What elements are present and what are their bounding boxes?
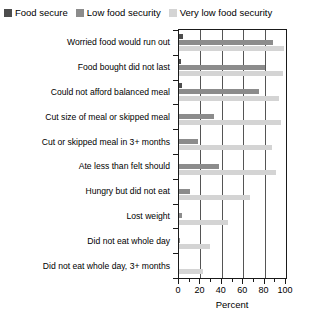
gridline-40 xyxy=(222,30,223,278)
y-axis-label-3: Cut size of meal or skipped meal xyxy=(0,112,174,122)
chart-legend: Food secure Low food security Very low f… xyxy=(4,6,305,20)
x-axis-tick-label-100: 100 xyxy=(273,285,297,296)
y-axis-label-8: Did not eat whole day xyxy=(0,236,174,246)
legend-swatch-icon-low-food-security xyxy=(76,9,84,17)
x-axis-tick-label-60: 60 xyxy=(230,285,254,296)
legend-swatch-icon-food-secure xyxy=(4,9,12,17)
y-axis-label-4: Cut or skipped meal in 3+ months xyxy=(0,137,174,147)
legend-item-very-low-food-security: Very low food security xyxy=(169,8,272,18)
y-axis-label-0: Worried food would run out xyxy=(0,37,174,47)
legend-label-low-food-security: Low food security xyxy=(87,8,161,18)
x-axis-tick-40 xyxy=(221,279,222,284)
y-axis-label-9: Did not eat whole day, 3+ months xyxy=(0,261,174,271)
x-axis-minor-tick-50 xyxy=(232,279,233,282)
x-axis-tick-label-40: 40 xyxy=(209,285,233,296)
x-axis-tick-20 xyxy=(199,279,200,284)
x-axis-tick-60 xyxy=(242,279,243,284)
x-axis-minor-tick-70 xyxy=(253,279,254,282)
x-axis-tick-0 xyxy=(178,279,179,284)
legend-label-food-secure: Food secure xyxy=(15,8,68,18)
x-axis-tick-80 xyxy=(264,279,265,284)
grouped-bar-chart: Food secure Low food security Very low f… xyxy=(0,0,309,320)
gridline-80 xyxy=(265,30,266,278)
x-axis-tick-label-0: 0 xyxy=(166,285,190,296)
y-axis-label-5: Ate less than felt should xyxy=(0,161,174,171)
x-axis-tick-label-80: 80 xyxy=(252,285,276,296)
legend-item-food-secure: Food secure xyxy=(4,8,68,18)
gridline-20 xyxy=(200,30,201,278)
plot-area xyxy=(178,29,287,279)
y-axis-label-6: Hungry but did not eat xyxy=(0,186,174,196)
legend-swatch-icon-very-low-food-security xyxy=(169,9,177,17)
x-axis-tick-100 xyxy=(285,279,286,284)
legend-item-low-food-security: Low food security xyxy=(76,8,161,18)
y-axis-label-2: Could not afford balanced meal xyxy=(0,87,174,97)
x-axis-tick-label-20: 20 xyxy=(187,285,211,296)
gridline-60 xyxy=(243,30,244,278)
legend-label-very-low-food-security: Very low food security xyxy=(180,8,272,18)
x-axis-minor-tick-90 xyxy=(274,279,275,282)
y-axis-label-7: Lost weight xyxy=(0,211,174,221)
x-axis-minor-tick-10 xyxy=(189,279,190,282)
x-axis-title: Percent xyxy=(178,299,286,310)
y-axis-label-1: Food bought did not last xyxy=(0,62,174,72)
y-axis-category-labels: Worried food would run outFood bought di… xyxy=(0,30,174,278)
x-axis-minor-tick-30 xyxy=(210,279,211,282)
